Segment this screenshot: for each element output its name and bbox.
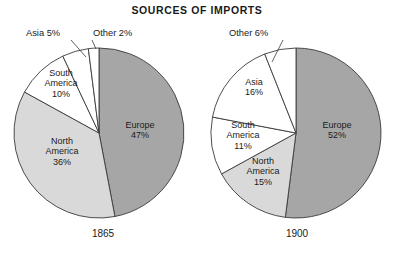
slice-label-other: Other 2% [93, 28, 132, 38]
page-title: SOURCES OF IMPORTS [132, 4, 263, 16]
sources-of-imports-figure: SOURCES OF IMPORTS Europe47%NorthAmerica… [0, 0, 395, 260]
year-label-1900: 1900 [286, 228, 309, 239]
year-label-1865: 1865 [92, 228, 115, 239]
slice-label-other: Other 6% [229, 28, 268, 38]
slice-label-asia: Asia16% [245, 77, 263, 98]
slice-label-asia: Asia 5% [26, 28, 60, 38]
